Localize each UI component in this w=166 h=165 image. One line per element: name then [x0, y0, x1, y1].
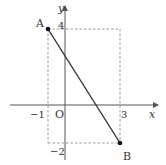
coordinate-diagram: A B y x O 4 3 −1 −2: [0, 0, 166, 165]
point-a-label: A: [35, 17, 45, 30]
y-axis-label: y: [57, 2, 65, 15]
point-a-dot: [46, 27, 51, 32]
point-b-label: B: [123, 150, 131, 163]
point-b-dot: [118, 141, 123, 146]
origin-label: O: [55, 108, 64, 121]
tick-label-x3: 3: [121, 109, 127, 120]
x-axis-label: x: [149, 108, 156, 121]
tick-label-y4: 4: [58, 20, 64, 31]
tick-label-xneg1: −1: [30, 109, 45, 120]
tick-label-yneg2: −2: [50, 146, 65, 157]
segment-ab: [48, 29, 120, 143]
